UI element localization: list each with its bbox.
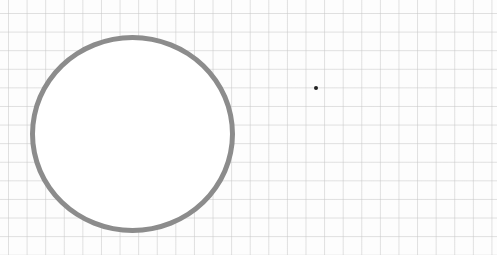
point-dot — [314, 86, 318, 90]
drawn-circle — [30, 35, 235, 233]
graph-paper — [0, 0, 497, 255]
